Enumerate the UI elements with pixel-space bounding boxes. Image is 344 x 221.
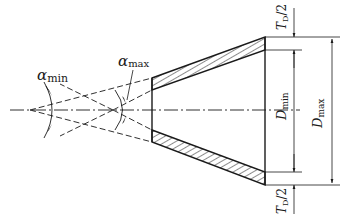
cone-tolerance-diagram: αmin αmax TD/2 Dmin Dmax TD/2 <box>0 0 344 221</box>
alpha-max-leader <box>127 70 133 100</box>
svg-text:TD/2: TD/2 <box>275 188 290 214</box>
svg-text:Dmin: Dmin <box>274 92 290 121</box>
svg-text:Dmax: Dmax <box>310 99 326 129</box>
alpha-min-label: αmin <box>37 66 68 85</box>
svg-text:TD/2: TD/2 <box>275 4 290 30</box>
alpha-min-leader <box>46 86 48 90</box>
upper-tolerance-zone <box>152 37 265 90</box>
dmin-label: Dmin <box>274 92 290 121</box>
dmax-label: Dmax <box>310 99 326 129</box>
alpha-max-label: αmax <box>118 52 150 70</box>
td-top-label: TD/2 <box>275 4 290 30</box>
lower-tolerance-zone <box>152 130 265 185</box>
td-bottom-label: TD/2 <box>275 188 290 214</box>
